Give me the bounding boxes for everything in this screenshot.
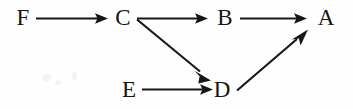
edge-f-to-c	[36, 13, 108, 24]
edge-b-to-a	[240, 13, 307, 24]
edge-d-to-a-line	[237, 39, 297, 91]
edge-d-to-a	[237, 30, 308, 91]
edge-c-to-d-line	[137, 20, 200, 72]
edge-d-to-a-arrowhead	[292, 30, 308, 46]
node-label-f: F	[10, 6, 36, 29]
node-label-d: D	[209, 78, 235, 101]
edge-c-to-d	[137, 20, 211, 84]
edge-c-to-b	[137, 13, 208, 24]
node-label-e: E	[116, 78, 142, 101]
directed-graph-diagram: F C B A E D	[0, 0, 353, 109]
node-label-c: C	[110, 6, 136, 29]
graph-edges-canvas	[0, 0, 353, 109]
node-label-a: A	[313, 6, 339, 29]
node-label-b: B	[212, 6, 238, 29]
edge-e-to-d	[142, 84, 213, 95]
